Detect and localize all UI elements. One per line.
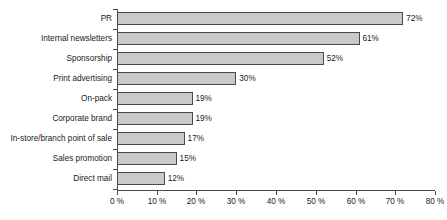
bar-row: Internal newsletters 61% [0, 29, 447, 49]
x-axis-tick [236, 191, 237, 195]
bar [117, 132, 185, 145]
bar-value-label: 19% [196, 89, 212, 109]
bar-row: Sponsorship 52% [0, 49, 447, 69]
bar-row: On-pack 19% [0, 89, 447, 109]
category-label: PR [101, 9, 112, 29]
y-axis-tick [113, 9, 117, 10]
x-axis-tick-label: 0 % [110, 197, 124, 206]
bar [117, 12, 403, 25]
bar-row: Corporate brand 19% [0, 109, 447, 129]
bar [117, 152, 177, 165]
category-label: Sales promotion [53, 149, 112, 169]
x-axis-tick [196, 191, 197, 195]
bar-value-label: 61% [363, 29, 379, 49]
bar [117, 92, 193, 105]
x-axis-tick [276, 191, 277, 195]
bar-value-label: 15% [180, 149, 196, 169]
x-axis-tick [117, 191, 118, 195]
y-axis-line [117, 9, 118, 190]
bar-row: Direct mail 12% [0, 169, 447, 189]
x-axis-tick-label: 80 % [426, 197, 445, 206]
y-axis-tick [113, 149, 117, 150]
x-axis-tick-label: 10 % [148, 197, 167, 206]
bar-rows: PR 72% Internal newsletters 61% Sponsors… [0, 9, 447, 189]
category-label: Corporate brand [52, 109, 112, 129]
category-label: On-pack [81, 89, 112, 109]
category-label: In-store/branch point of sale [11, 129, 113, 149]
bar-row: Sales promotion 15% [0, 149, 447, 169]
bar-value-label: 19% [196, 109, 212, 129]
y-axis-tick [113, 89, 117, 90]
y-axis-tick [113, 49, 117, 50]
category-label: Direct mail [73, 169, 112, 189]
x-axis-tick [316, 191, 317, 195]
plot-area: PR 72% Internal newsletters 61% Sponsors… [0, 0, 447, 220]
x-axis-tick [356, 191, 357, 195]
category-label: Print advertising [53, 69, 112, 89]
bar [117, 172, 165, 185]
x-axis-tick-label: 20 % [187, 197, 206, 206]
bar-value-label: 17% [188, 129, 204, 149]
y-axis-tick [113, 129, 117, 130]
bar-value-label: 52% [327, 49, 343, 69]
bar-row: Print advertising 30% [0, 69, 447, 89]
x-axis-tick-label: 30 % [227, 197, 246, 206]
bar-value-label: 12% [168, 169, 184, 189]
bar-value-label: 72% [406, 9, 422, 29]
x-axis-tick-label: 40 % [267, 197, 286, 206]
bar-value-label: 30% [239, 69, 255, 89]
bar [117, 112, 193, 125]
y-axis-tick [113, 169, 117, 170]
bar-chart: PR 72% Internal newsletters 61% Sponsors… [0, 0, 447, 220]
x-axis-tick [395, 191, 396, 195]
category-label: Internal newsletters [41, 29, 112, 49]
y-axis-tick [113, 69, 117, 70]
bar [117, 32, 360, 45]
y-axis-tick [113, 29, 117, 30]
x-axis-tick [157, 191, 158, 195]
x-axis-tick-label: 50 % [307, 197, 326, 206]
category-label: Sponsorship [66, 49, 112, 69]
bar-row: PR 72% [0, 9, 447, 29]
x-axis-tick [435, 191, 436, 195]
x-axis-tick-label: 60 % [347, 197, 366, 206]
x-axis-tick-label: 70 % [386, 197, 405, 206]
y-axis-tick [113, 109, 117, 110]
bar [117, 72, 236, 85]
bar-row: In-store/branch point of sale 17% [0, 129, 447, 149]
bar [117, 52, 324, 65]
